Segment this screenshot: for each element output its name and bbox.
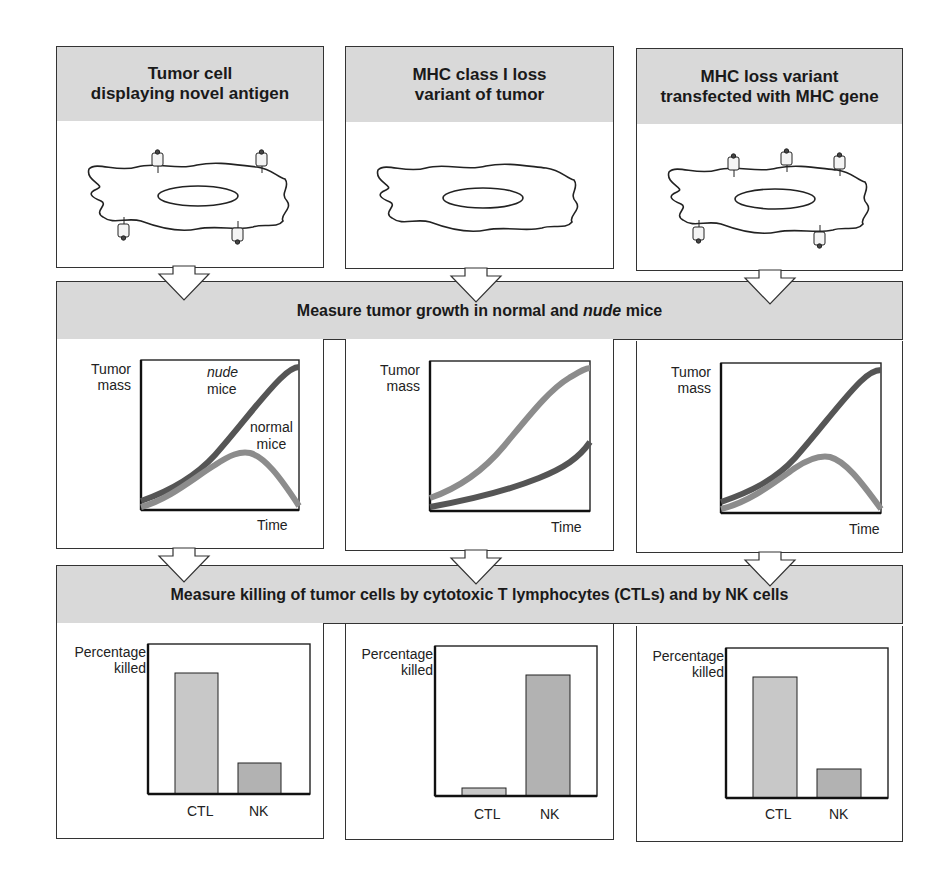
growth-chart-panel-1: Tumor mass nude mice normal mice Time [56,339,324,549]
down-arrow-icon [451,550,511,590]
down-arrow-icon [451,268,511,308]
y-axis-label: Percentage killed [61,644,146,676]
band-growth-text-italic: nude [583,302,621,320]
bar-nk [817,769,861,798]
bar-label-ctl: CTL [187,803,213,819]
header-mhc-loss-variant: MHC class I loss variant of tumor [345,46,614,123]
killing-chart-panel-3: Percentage killed CTL NK [636,626,903,842]
growth-chart-3 [720,362,882,514]
header-line-2: transfected with MHC gene [660,87,878,107]
killing-chart-panel-2: Percentage killed CTL NK [345,624,614,840]
bar-nk [238,763,281,794]
cell-panel-mhc-loss-variant [345,122,614,269]
bar-label-nk: NK [829,806,848,822]
bar-label-nk: NK [249,803,268,819]
y-axis-label: Percentage killed [639,648,724,680]
header-tumor-cell: Tumor cell displaying novel antigen [56,46,324,122]
growth-chart-2 [429,360,591,512]
bar-nk [526,675,570,796]
header-line-1: Tumor cell [91,64,289,84]
bar-label-ctl: CTL [765,806,791,822]
bar-ctl [462,788,506,796]
y-axis-label: Tumor mass [75,361,131,393]
header-line-1: MHC class I loss [412,65,546,85]
tumor-cell-no-mhc-icon [346,122,615,269]
growth-chart-panel-3: Tumor mass Time [636,341,903,553]
down-arrow-icon [159,548,219,588]
y-axis-label: Percentage killed [348,646,433,678]
bar-label-ctl: CTL [474,806,500,822]
down-arrow-icon [745,270,805,310]
y-axis-label: Tumor mass [653,364,711,396]
y-axis-label: Tumor mass [364,362,420,394]
killing-chart-panel-1: Percentage killed CTL NK [56,623,324,839]
curve-label-nude: nude mice [207,364,238,398]
killing-chart-1 [147,643,311,795]
tumor-cell-with-mhc-icon [57,121,325,268]
cell-panel-transfected-variant [636,124,903,271]
header-line-2: variant of tumor [412,85,546,105]
down-arrow-icon [159,266,219,306]
down-arrow-icon [745,552,805,592]
x-axis-label: Time [257,517,288,533]
bar-ctl [175,673,218,794]
x-axis-label: Time [551,519,582,535]
band-growth-text-before: Measure tumor growth in normal and [297,302,583,320]
curve-label-normal: normal mice [250,419,293,453]
x-axis-label: Time [849,521,880,537]
header-line-2: displaying novel antigen [91,84,289,104]
killing-chart-2 [434,645,598,797]
cell-panel-tumor-cell [56,121,324,268]
band-growth-text-after: mice [621,302,662,320]
header-transfected-variant: MHC loss variant transfected with MHC ge… [636,48,903,125]
killing-chart-3 [725,647,889,799]
growth-chart-panel-2: Tumor mass Time [345,339,614,551]
header-line-1: MHC loss variant [660,67,878,87]
bar-ctl [753,677,797,798]
bar-label-nk: NK [540,806,559,822]
tumor-cell-with-restored-mhc-icon [637,124,904,271]
